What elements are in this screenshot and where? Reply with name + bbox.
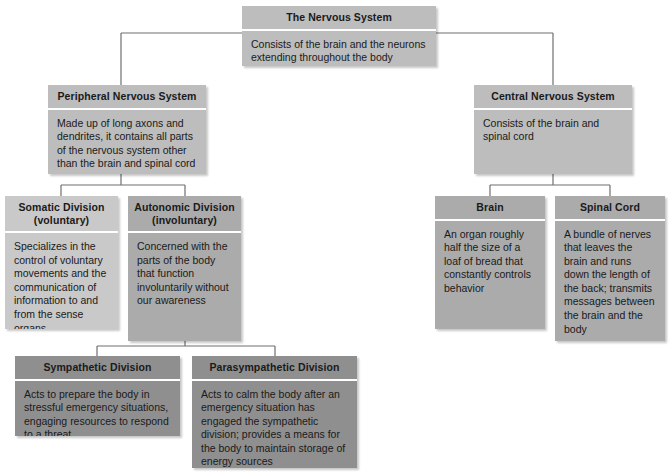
node-peripheral-nervous-system[interactable]: Peripheral Nervous System Made up of lon… xyxy=(48,85,206,174)
node-autonomic-division-title-line2: (involuntary) xyxy=(152,214,217,226)
node-brain[interactable]: Brain An organ roughly half the size of … xyxy=(435,196,545,329)
node-nervous-system[interactable]: The Nervous System Consists of the brain… xyxy=(242,6,436,66)
node-sympathetic-division-description: Acts to prepare the body in stressful em… xyxy=(15,381,180,437)
node-central-nervous-system-title: Central Nervous System xyxy=(474,85,632,110)
node-somatic-division-title-line2: (voluntary) xyxy=(34,214,89,226)
node-peripheral-nervous-system-description: Made up of long axons and dendrites, it … xyxy=(48,110,206,175)
node-parasympathetic-division-title: Parasympathetic Division xyxy=(192,356,357,381)
node-brain-description: An organ roughly half the size of a loaf… xyxy=(435,221,545,303)
node-spinal-cord-description: A bundle of nerves that leaves the brain… xyxy=(555,221,665,342)
node-spinal-cord-title: Spinal Cord xyxy=(555,196,665,221)
node-nervous-system-description: Consists of the brain and the neurons ex… xyxy=(242,31,436,67)
nervous-system-diagram: The Nervous System Consists of the brain… xyxy=(0,0,670,476)
node-somatic-division-title-line1: Somatic Division xyxy=(18,201,104,213)
node-nervous-system-title: The Nervous System xyxy=(242,6,436,31)
node-somatic-division-description: Specializes in the control of voluntary … xyxy=(5,233,118,329)
node-parasympathetic-division[interactable]: Parasympathetic Division Acts to calm th… xyxy=(192,356,357,468)
node-central-nervous-system-description: Consists of the brain and spinal cord xyxy=(474,110,632,151)
node-spinal-cord[interactable]: Spinal Cord A bundle of nerves that leav… xyxy=(555,196,665,341)
node-parasympathetic-division-description: Acts to calm the body after an emergency… xyxy=(192,381,357,469)
node-brain-title: Brain xyxy=(435,196,545,221)
node-autonomic-division-title-line1: Autonomic Division xyxy=(134,201,234,213)
node-peripheral-nervous-system-title: Peripheral Nervous System xyxy=(48,85,206,110)
node-somatic-division[interactable]: Somatic Division (voluntary) Specializes… xyxy=(5,196,118,329)
node-somatic-division-title: Somatic Division (voluntary) xyxy=(5,196,118,233)
node-central-nervous-system[interactable]: Central Nervous System Consists of the b… xyxy=(474,85,632,174)
node-autonomic-division-description: Concerned with the parts of the body tha… xyxy=(128,233,241,315)
node-autonomic-division-title: Autonomic Division (involuntary) xyxy=(128,196,241,233)
node-autonomic-division[interactable]: Autonomic Division (involuntary) Concern… xyxy=(128,196,241,341)
node-sympathetic-division[interactable]: Sympathetic Division Acts to prepare the… xyxy=(15,356,180,436)
node-sympathetic-division-title: Sympathetic Division xyxy=(15,356,180,381)
